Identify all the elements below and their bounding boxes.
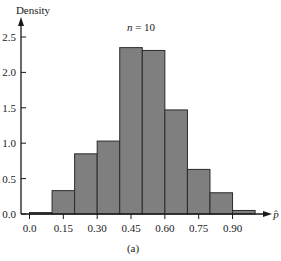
x-axis-arrow-icon <box>263 211 272 217</box>
y-tick-label: 0.0 <box>2 208 16 220</box>
histogram-bar <box>187 169 210 214</box>
histogram-figure: 0.00.51.01.52.02.5 0.00.150.300.450.600.… <box>0 0 281 261</box>
annotation-value: = 10 <box>132 21 155 33</box>
x-tick-label: 0.15 <box>54 222 74 234</box>
histogram-bars <box>30 48 256 214</box>
x-tick-label: 0.90 <box>223 222 243 234</box>
x-tick-label: 0.75 <box>189 222 209 234</box>
x-tick-label: 0.30 <box>88 222 108 234</box>
y-tick-label: 2.0 <box>2 66 16 78</box>
x-axis-ticks: 0.00.150.300.450.600.750.90 <box>23 214 243 234</box>
figure-caption: (a) <box>127 242 140 255</box>
x-axis-title: p̂ <box>272 208 279 220</box>
x-tick-label: 0.45 <box>121 222 141 234</box>
histogram-bar <box>142 50 165 214</box>
y-tick-label: 1.5 <box>2 102 16 114</box>
histogram-bar <box>120 48 143 214</box>
y-axis-ticks: 0.00.51.01.52.02.5 <box>2 31 26 220</box>
histogram-bar <box>97 141 120 214</box>
histogram-bar <box>210 193 233 214</box>
sample-size-annotation: n = 10 <box>127 21 156 33</box>
x-tick-label: 0.60 <box>155 222 175 234</box>
y-axis-title: Density <box>16 4 51 16</box>
histogram-bar <box>52 191 75 214</box>
y-tick-label: 1.0 <box>2 137 16 149</box>
y-tick-label: 0.5 <box>2 173 16 185</box>
y-tick-label: 2.5 <box>2 31 16 43</box>
x-tick-label: 0.0 <box>23 222 37 234</box>
y-axis-arrow-icon <box>18 17 24 26</box>
histogram-chart: 0.00.51.01.52.02.5 0.00.150.300.450.600.… <box>0 0 281 261</box>
histogram-bar <box>75 154 98 214</box>
histogram-bar <box>165 110 188 214</box>
